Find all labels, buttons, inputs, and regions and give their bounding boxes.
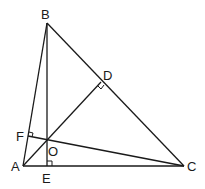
triangle-diagram: B A C D E F O bbox=[0, 0, 205, 189]
label-d: D bbox=[103, 68, 112, 83]
right-angle-mark-e bbox=[47, 161, 52, 166]
label-b: B bbox=[41, 7, 50, 22]
label-c: C bbox=[187, 159, 196, 174]
label-o: O bbox=[48, 144, 58, 159]
label-e: E bbox=[42, 171, 51, 186]
side-bc bbox=[47, 23, 184, 166]
diagram-canvas: B A C D E F O bbox=[0, 0, 205, 189]
label-a: A bbox=[11, 159, 20, 174]
right-angle-mark-d bbox=[98, 85, 104, 89]
label-f: F bbox=[16, 129, 24, 144]
